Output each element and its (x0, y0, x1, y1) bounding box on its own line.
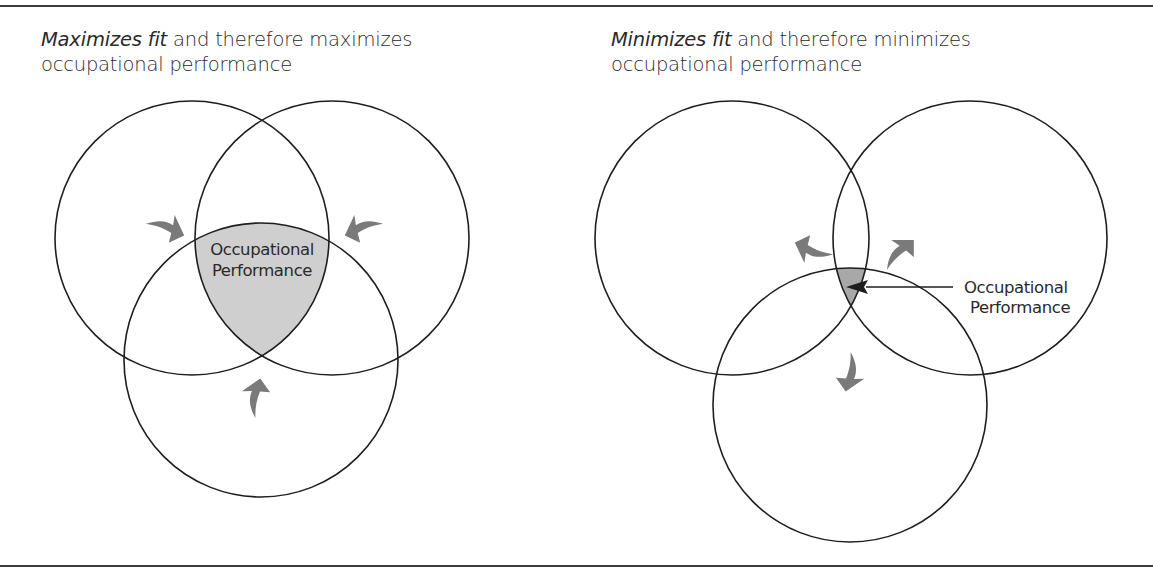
center-label-line-2: Performance (212, 261, 312, 280)
callout-label-line-1: Occupational (964, 278, 1068, 297)
arrow-inward-bottom-icon (238, 376, 273, 420)
arrow-outward-bottom-icon (834, 350, 869, 394)
arrow-outward-right-icon (874, 229, 922, 277)
arrow-inward-right-icon (339, 207, 386, 247)
circle-top-right (833, 101, 1107, 375)
arrow-outward-left-icon (789, 231, 836, 271)
callout-label-line-2: Performance (970, 298, 1070, 317)
venn-diagrams: Occupational Performance Occupational Pe… (0, 0, 1153, 568)
center-label-line-1: Occupational (210, 240, 314, 259)
venn-minimize-fit: Occupational Performance (595, 101, 1107, 542)
arrow-inward-left-icon (143, 207, 190, 247)
venn-maximize-fit: Occupational Performance (55, 101, 469, 497)
